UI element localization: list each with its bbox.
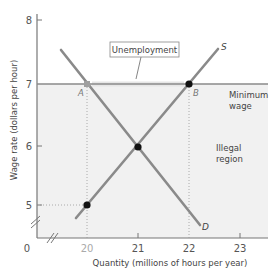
minimum-wage-label-1: Minimum xyxy=(229,90,268,100)
point-a-marker xyxy=(84,81,90,87)
illegal-region-label-2: region xyxy=(216,154,243,164)
illegal-region-label-1: Illegal xyxy=(216,143,241,153)
x-axis-title: Quantity (millions of hours per year) xyxy=(93,258,248,268)
x-tick-23: 23 xyxy=(234,243,247,254)
chart-canvas: Unemployment S D A B Minimum wage Illega… xyxy=(0,0,279,278)
point-b-label: B xyxy=(193,88,199,98)
supply-label: S xyxy=(221,42,227,52)
minimum-wage-label-2: wage xyxy=(229,101,252,111)
point-a-label: A xyxy=(77,88,84,98)
y-tick-6: 6 xyxy=(26,141,32,152)
y-tick-8: 8 xyxy=(26,15,32,26)
unemployment-callout-line xyxy=(136,57,141,79)
y-tick-7: 7 xyxy=(26,79,32,90)
point-b-marker xyxy=(185,80,192,87)
origin-label: 0 xyxy=(24,243,30,254)
demand-label: D xyxy=(202,222,209,232)
y-tick-5: 5 xyxy=(26,200,32,211)
unemployment-label: Unemployment xyxy=(112,45,178,55)
x-tick-20: 20 xyxy=(81,243,94,254)
x-tick-22: 22 xyxy=(183,243,196,254)
equilibrium-point-marker xyxy=(134,143,141,150)
point-20-5-marker xyxy=(83,201,90,208)
y-axis-title: Wage rate (dollars per hour) xyxy=(9,60,19,180)
x-tick-21: 21 xyxy=(132,243,145,254)
